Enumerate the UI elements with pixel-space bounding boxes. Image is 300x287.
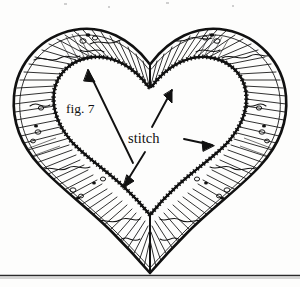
scan-speckle bbox=[64, 2, 234, 8]
figure-illustration: fig. 7 stitch bbox=[0, 0, 300, 287]
stitch-label: stitch bbox=[128, 130, 160, 146]
heart-diagram-canvas: fig. 7 stitch bbox=[0, 0, 300, 287]
figure-caption-label: fig. 7 bbox=[66, 101, 95, 116]
